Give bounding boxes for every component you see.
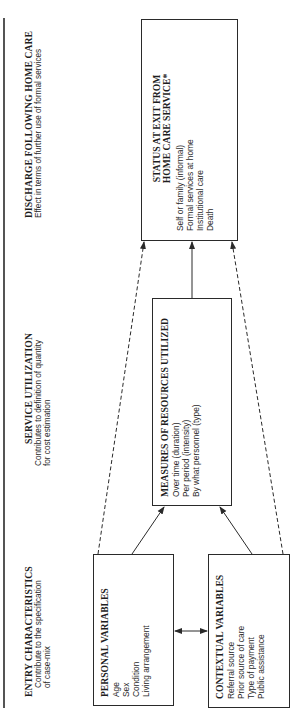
diagram-canvas: ENTRY CHARACTERISTICS Contribute to the …	[0, 0, 308, 719]
header-entry-subtitle-1: Contribute to the specification	[34, 566, 44, 697]
header-entry-title: ENTRY CHARACTERISTICS	[24, 566, 34, 697]
measures-item-type: By what personnel (type)	[191, 305, 201, 497]
contextual-item-prior-source: Prior source of care	[236, 561, 246, 699]
arrow-personal-to-measures	[132, 507, 164, 554]
header-entry-subtitle-2: of case-mix	[43, 566, 53, 697]
header-discharge: DISCHARGE FOLLOWING HOME CARE Effect in …	[24, 31, 43, 218]
personal-item-living-arrangement: Living arrangement	[141, 561, 151, 697]
status-title-line-2: HOME CARE SERVICE*	[162, 26, 172, 231]
contextual-variables-title: CONTEXTUAL VARIABLES	[215, 561, 225, 699]
dashed-arrow-personal-to-status	[98, 242, 144, 554]
header-discharge-title: DISCHARGE FOLLOWING HOME CARE	[24, 31, 34, 218]
contextual-item-referral-source: Referral source	[226, 561, 236, 699]
status-at-exit-box: STATUS AT EXIT FROM HOME CARE SERVICE* S…	[141, 19, 238, 241]
status-item-death: Death	[205, 26, 215, 231]
header-service-title: SERVICE UTILIZATION	[24, 333, 34, 466]
contextual-item-public-assistance: Public assistance	[256, 561, 266, 699]
contextual-item-type-of-payment: Type of payment	[246, 561, 256, 699]
personal-variables-title: PERSONAL VARIABLES	[100, 561, 110, 697]
contextual-variables-box: CONTEXTUAL VARIABLES Referral source Pri…	[208, 554, 290, 708]
personal-item-condition: Condition	[131, 561, 141, 697]
header-entry-characteristics: ENTRY CHARACTERISTICS Contribute to the …	[24, 566, 53, 697]
header-discharge-subtitle: Effect in terms of further use of formal…	[34, 31, 44, 218]
personal-item-age: Age	[111, 561, 121, 697]
header-service-subtitle-1: Contributes to definition of quantity	[34, 333, 44, 466]
status-item-institutional-care: Institutional care	[195, 26, 205, 231]
arrow-contextual-to-measures	[220, 507, 252, 554]
personal-variables-box: PERSONAL VARIABLES Age Sex Condition Liv…	[93, 554, 174, 706]
status-item-formal-services: Formal services at home	[185, 26, 195, 231]
measures-of-resources-box: MEASURES OF RESOURCES UTILIZED Over time…	[152, 298, 232, 506]
dashed-arrow-contextual-to-status	[232, 242, 283, 554]
personal-item-sex: Sex	[121, 561, 131, 697]
measures-title: MEASURES OF RESOURCES UTILIZED	[160, 305, 170, 497]
status-item-self-family: Self or family (informal)	[175, 26, 185, 231]
header-service-subtitle-2: for cost estimation	[43, 333, 53, 466]
measures-item-intensity: Per period (intensity)	[181, 305, 191, 497]
header-service-utilization: SERVICE UTILIZATION Contributes to defin…	[24, 333, 53, 466]
measures-item-duration: Over time (duration)	[171, 305, 181, 497]
